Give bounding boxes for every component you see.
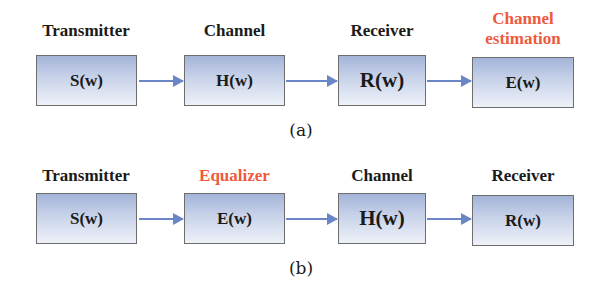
channel-formula: H(w) [359,206,405,231]
equalizer-formula: E(w) [217,209,252,229]
transmitter-formula: S(w) [70,71,103,91]
caption-a: (a) [281,120,321,140]
equalizer-label: Equalizer [184,167,285,184]
channel-block: H(w) [338,193,426,244]
receiver-label: Receiver [332,22,432,39]
channel-estimation-label-line2: estimation [472,30,574,47]
channel-estimation-label-line1: Channel [472,10,574,27]
channel-label: Channel [338,167,426,184]
receiver-block: R(w) [338,55,426,106]
equalizer-block: E(w) [184,193,285,244]
channel-estimation-block: E(w) [472,57,574,108]
channel-block: H(w) [184,55,285,106]
transmitter-label: Transmitter [30,167,142,184]
receiver-formula: R(w) [360,68,404,93]
transmitter-label: Transmitter [30,22,142,39]
transmitter-formula: S(w) [70,209,103,229]
caption-b: (b) [281,258,321,278]
channel-label: Channel [184,22,285,39]
arrow-equalizer-to-channel [286,218,337,220]
channel-formula: H(w) [216,71,253,91]
arrow-channel-to-receiver [286,80,337,82]
arrow-transmitter-to-equalizer [139,218,183,220]
arrow-channel-to-receiver [427,218,471,220]
arrow-receiver-to-estimation [427,80,471,82]
channel-estimation-formula: E(w) [506,73,541,93]
receiver-label: Receiver [472,167,574,184]
transmitter-block: S(w) [36,193,137,244]
receiver-block: R(w) [472,195,574,246]
receiver-formula: R(w) [505,211,541,231]
transmitter-block: S(w) [36,55,137,106]
arrow-transmitter-to-channel [139,80,183,82]
